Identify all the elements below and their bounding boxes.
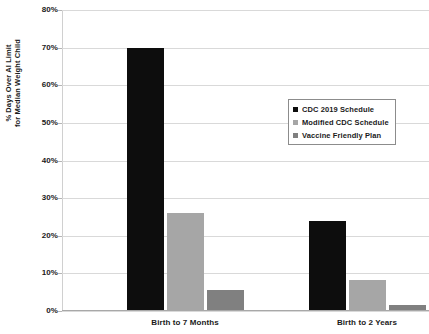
plot-area: [62, 10, 429, 311]
y-axis-tick-mark: [58, 123, 62, 124]
y-axis-tick-label: 0%: [14, 306, 58, 315]
gridline: [62, 10, 429, 11]
y-axis-tick-label: 30%: [14, 193, 58, 202]
y-axis-tick-mark: [58, 311, 62, 312]
legend-item-cdc-2019-schedule[interactable]: CDC 2019 Schedule: [293, 104, 389, 114]
legend: CDC 2019 Schedule Modified CDC Schedule …: [288, 99, 396, 145]
y-axis-tick-label: 50%: [14, 118, 58, 127]
gridline: [62, 236, 429, 237]
y-axis-tick-mark: [58, 236, 62, 237]
x-axis-category-label: Birth to 2 Years: [287, 318, 429, 327]
y-axis-tick-label: 60%: [14, 80, 58, 89]
y-axis-tick-label: 10%: [14, 268, 58, 277]
bar: [309, 221, 346, 311]
legend-label: CDC 2019 Schedule: [302, 105, 374, 114]
y-axis-title-line1: % Days Over AI Limit: [4, 44, 13, 121]
x-axis-category-label: Birth to 7 Months: [105, 318, 265, 327]
y-axis-tick-mark: [58, 48, 62, 49]
bar: [349, 280, 386, 311]
gridline: [62, 48, 429, 49]
y-axis-tick-mark: [58, 161, 62, 162]
y-axis-tick-mark: [58, 10, 62, 11]
gridline: [62, 161, 429, 162]
gridline: [62, 273, 429, 274]
legend-swatch-icon: [293, 133, 298, 138]
legend-label: Vaccine Friendly Plan: [302, 131, 381, 140]
y-axis-tick-label: 80%: [14, 5, 58, 14]
gridline: [62, 198, 429, 199]
legend-label: Modified CDC Schedule: [302, 118, 389, 127]
y-axis-tick-mark: [58, 198, 62, 199]
y-axis-tick-mark: [58, 273, 62, 274]
legend-swatch-icon: [293, 120, 298, 125]
y-axis-tick-label: 20%: [14, 231, 58, 240]
bar-chart: % Days Over AI Limit for Median Weight C…: [0, 0, 429, 334]
legend-item-modified-cdc-schedule[interactable]: Modified CDC Schedule: [293, 117, 389, 127]
x-axis-line: [62, 310, 429, 311]
gridline: [62, 85, 429, 86]
y-axis-tick-label: 40%: [14, 156, 58, 165]
y-axis-tick-mark: [58, 85, 62, 86]
bar: [207, 290, 244, 311]
bar: [127, 48, 164, 311]
bar: [167, 213, 204, 311]
gridline: [62, 311, 429, 312]
legend-swatch-icon: [293, 107, 298, 112]
legend-item-vaccine-friendly-plan[interactable]: Vaccine Friendly Plan: [293, 130, 389, 140]
y-axis-tick-label: 70%: [14, 43, 58, 52]
